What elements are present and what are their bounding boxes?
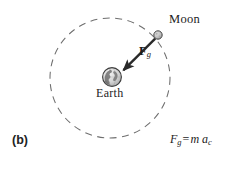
force-equation: Fg=m ac [170, 133, 212, 147]
equation-accel-subscript: c [208, 137, 212, 147]
moon-body [154, 31, 162, 39]
moon-label: Moon [169, 13, 200, 26]
equation-mass-symbol: m [190, 132, 199, 146]
force-symbol: F [139, 44, 147, 58]
earth-body [103, 68, 122, 87]
equation-lhs-subscript: g [177, 137, 181, 147]
earth-label: Earth [96, 87, 124, 99]
physics-figure-panel-b: Moon Earth Fg (b) Fg=m ac [0, 0, 239, 172]
force-subscript: g [147, 49, 151, 59]
force-vector-label: Fg [139, 45, 151, 59]
panel-label: (b) [12, 134, 28, 147]
